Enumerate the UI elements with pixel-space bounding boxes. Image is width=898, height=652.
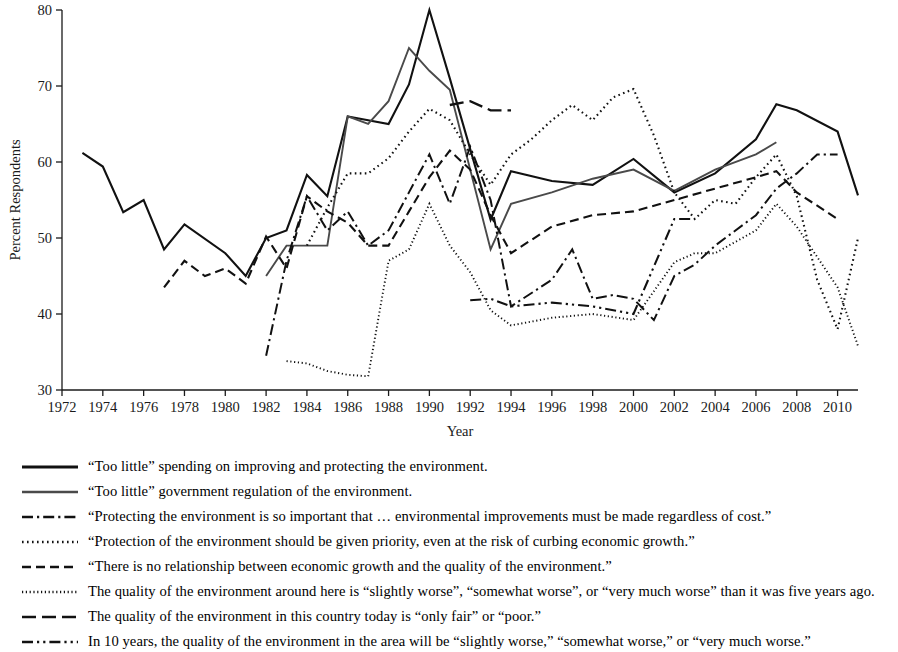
legend-item: “Protection of the environment should be… <box>0 529 898 554</box>
x-tick-label: 2004 <box>701 399 731 415</box>
x-tick-label: 2008 <box>782 399 811 415</box>
chart-figure: 3040506070801972197419761978198019821984… <box>0 0 898 445</box>
x-tick-label: 1976 <box>129 399 158 415</box>
legend-item: “Too little” government regulation of th… <box>0 479 898 504</box>
legend-item: “Protecting the environment is so import… <box>0 504 898 529</box>
x-tick-label: 2006 <box>741 399 770 415</box>
legend-item: “Too little” spending on improving and p… <box>0 454 898 479</box>
y-tick-label: 60 <box>38 154 53 170</box>
y-axis-title: Percent Respondents <box>7 139 23 261</box>
legend-line-swatch <box>22 485 78 499</box>
x-tick-label: 1974 <box>88 399 118 415</box>
legend-line-swatch <box>22 610 78 624</box>
legend-item-label: The quality of the environment around he… <box>88 584 875 599</box>
x-tick-label: 1996 <box>537 399 566 415</box>
series-line-quality-around-here-worse <box>287 204 858 377</box>
legend-item: The quality of the environment around he… <box>0 579 898 604</box>
legend-line-swatch <box>22 460 78 474</box>
series-line-too-little-regulation <box>266 48 776 276</box>
series-line-priority-over-economic-growth <box>307 89 858 329</box>
x-tick-label: 1984 <box>292 399 322 415</box>
legend-line-swatch <box>22 535 78 549</box>
y-tick-label: 30 <box>38 382 53 398</box>
legend-item: The quality of the environment in this c… <box>0 604 898 629</box>
x-tick-label: 2010 <box>823 399 852 415</box>
y-tick-label: 70 <box>38 78 53 94</box>
x-tick-label: 1986 <box>333 399 362 415</box>
legend-line-swatch <box>22 585 78 599</box>
legend-item-label: “Protecting the environment is so import… <box>88 509 771 524</box>
legend-item-label: “Too little” spending on improving and p… <box>88 459 488 474</box>
x-tick-label: 1982 <box>252 399 281 415</box>
y-tick-label: 50 <box>38 230 53 246</box>
legend-item-label: The quality of the environment in this c… <box>88 609 541 624</box>
x-axis-title: Year <box>447 423 474 439</box>
legend-item-label: “Protection of the environment should be… <box>88 534 695 549</box>
x-tick-label: 1980 <box>211 399 240 415</box>
legend-item-label: “There is no relationship between econom… <box>88 559 612 574</box>
x-tick-label: 1990 <box>415 399 444 415</box>
x-tick-label: 2002 <box>660 399 689 415</box>
chart-legend: “Too little” spending on improving and p… <box>0 448 898 652</box>
x-tick-label: 1988 <box>374 399 403 415</box>
x-tick-label: 1972 <box>48 399 77 415</box>
y-tick-label: 40 <box>38 306 53 322</box>
x-tick-label: 1994 <box>497 399 527 415</box>
y-tick-label: 80 <box>38 2 53 18</box>
legend-line-swatch <box>22 560 78 574</box>
legend-line-swatch <box>22 510 78 524</box>
legend-item-label: In 10 years, the quality of the environm… <box>88 634 811 649</box>
series-line-no-relationship-growth-quality <box>164 151 838 288</box>
legend-item-label: “Too little” government regulation of th… <box>88 484 412 499</box>
x-tick-label: 1978 <box>170 399 199 415</box>
x-tick-label: 2000 <box>619 399 648 415</box>
legend-item: In 10 years, the quality of the environm… <box>0 629 898 652</box>
line-chart-canvas: 3040506070801972197419761978198019821984… <box>0 0 898 445</box>
series-line-too-little-spending <box>82 10 858 276</box>
legend-item: “There is no relationship between econom… <box>0 554 898 579</box>
x-tick-label: 1992 <box>456 399 485 415</box>
legend-line-swatch <box>22 635 78 649</box>
x-tick-label: 1998 <box>578 399 607 415</box>
